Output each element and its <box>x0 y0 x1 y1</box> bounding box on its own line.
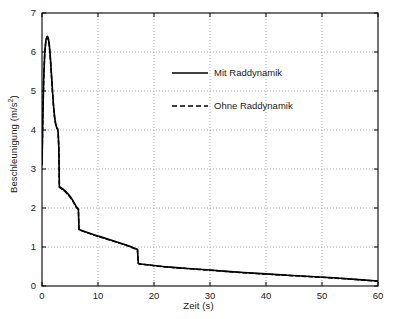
legend-label-ohne-raddynamik: Ohne Raddynamik <box>214 100 293 111</box>
y-axis-label: Beschleunigung (m/s2) <box>7 84 19 204</box>
y-tick-label: 4 <box>16 124 36 135</box>
y-tick-label: 2 <box>16 202 36 213</box>
x-axis-label: Zeit (s) <box>0 300 397 311</box>
plot-canvas <box>0 0 397 319</box>
y-tick-label: 0 <box>16 280 36 291</box>
acceleration-time-chart: Beschleunigung (m/s2) Zeit (s) 01234567 … <box>0 0 397 319</box>
y-tick-label: 5 <box>16 85 36 96</box>
x-tick-label: 40 <box>254 290 278 301</box>
x-tick-label: 30 <box>198 290 222 301</box>
legend-label-mit-raddynamik: Mit Raddynamik <box>214 67 282 78</box>
y-tick-label: 3 <box>16 163 36 174</box>
x-tick-label: 50 <box>310 290 334 301</box>
y-tick-label: 6 <box>16 46 36 57</box>
x-tick-label: 0 <box>30 290 54 301</box>
y-tick-label: 7 <box>16 7 36 18</box>
x-tick-label: 10 <box>86 290 110 301</box>
axes-background <box>42 13 378 286</box>
x-tick-label: 60 <box>366 290 390 301</box>
x-tick-label: 20 <box>142 290 166 301</box>
y-tick-label: 1 <box>16 241 36 252</box>
